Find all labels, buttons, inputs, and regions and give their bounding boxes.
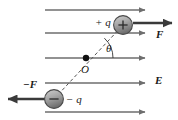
angle-theta-label: θ (106, 43, 111, 54)
force-negative-label: −F (23, 79, 37, 90)
dipole-axis (54, 25, 123, 99)
negative-charge-label: − q (66, 94, 82, 105)
negative-charge (45, 90, 64, 109)
figure-container: + q − q F −F E θ O (0, 0, 178, 120)
origin-label: O (81, 64, 89, 75)
origin-point (83, 55, 89, 61)
force-positive-label: F (156, 29, 163, 40)
positive-charge-label: + q (95, 17, 111, 28)
electric-field-label: E (155, 75, 162, 86)
positive-charge (114, 16, 133, 35)
dipole-field-diagram (0, 0, 178, 120)
